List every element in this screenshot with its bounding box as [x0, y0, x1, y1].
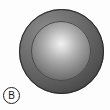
panel-label-text: B: [8, 91, 15, 101]
figure-canvas: B: [0, 0, 110, 110]
inner-dome-sphere: [31, 21, 91, 81]
panel-label-badge: B: [3, 87, 20, 104]
